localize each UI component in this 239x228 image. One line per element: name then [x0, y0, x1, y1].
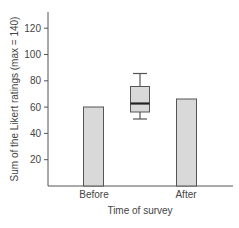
x-label-before: Before: [79, 189, 109, 200]
y-tick-label: 60: [30, 102, 42, 113]
chart: 20 40 60 80 100 120 Sum of the Likert ra…: [0, 0, 239, 228]
y-tick-label: 80: [30, 75, 42, 86]
y-tick-label: 120: [24, 23, 41, 34]
box: [131, 87, 150, 113]
y-tick-label: 20: [30, 154, 42, 165]
y-tick-label: 100: [24, 49, 41, 60]
bar-after: [177, 99, 197, 186]
boxplot: [131, 74, 150, 120]
y-tick-label: 40: [30, 128, 42, 139]
y-ticks: [44, 28, 48, 160]
x-label-after: After: [175, 189, 197, 200]
x-axis-title: Time of survey: [107, 205, 172, 216]
bar-before: [84, 107, 104, 186]
y-tick-labels: 20 40 60 80 100 120: [24, 23, 41, 166]
y-axis-title: Sum of the Likert ratings (max = 140): [9, 17, 20, 182]
